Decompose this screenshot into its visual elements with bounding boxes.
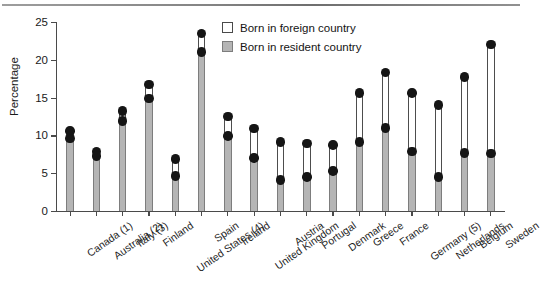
bar-foreign — [487, 45, 495, 154]
x-tick — [411, 211, 412, 216]
legend-item-foreign: Born in foreign country — [222, 19, 361, 36]
data-point-resident — [302, 172, 312, 182]
bar-resident — [93, 156, 101, 211]
bar-resident — [224, 136, 232, 211]
bar-resident — [172, 176, 180, 211]
y-tick — [51, 135, 57, 136]
data-point-resident — [407, 147, 417, 157]
y-tick-label: 0 — [42, 205, 48, 217]
y-tick-label: 5 — [42, 167, 48, 179]
x-tick — [280, 211, 281, 216]
legend-item-resident: Born in resident country — [222, 38, 361, 55]
bar-group — [198, 22, 206, 211]
bar-resident — [487, 154, 495, 211]
bar-resident — [198, 52, 206, 211]
data-point-foreign — [171, 154, 181, 164]
x-tick — [490, 211, 491, 216]
x-tick — [438, 211, 439, 216]
x-tick — [464, 211, 465, 216]
x-tick — [122, 211, 123, 216]
x-tick — [201, 211, 202, 216]
white-square-icon — [222, 22, 233, 33]
bar-resident — [145, 98, 153, 211]
bar-foreign — [461, 77, 469, 153]
bar-resident — [303, 177, 311, 211]
data-point-resident — [65, 134, 75, 144]
x-tick — [96, 211, 97, 216]
bar-resident — [250, 158, 258, 211]
data-point-foreign — [223, 112, 233, 122]
bar-resident — [66, 138, 74, 211]
data-point-foreign — [486, 40, 496, 50]
y-tick — [51, 22, 57, 23]
x-tick — [148, 211, 149, 216]
bar-group — [93, 22, 101, 211]
data-point-foreign — [434, 100, 444, 110]
data-point-foreign — [302, 139, 312, 149]
legend-label-foreign: Born in foreign country — [240, 22, 356, 34]
y-tick-label: 25 — [35, 16, 48, 28]
x-tick — [332, 211, 333, 216]
data-point-resident — [434, 172, 444, 182]
data-point-resident — [249, 153, 259, 163]
bar-group — [382, 22, 390, 211]
x-tick — [306, 211, 307, 216]
bar-foreign — [435, 105, 443, 177]
y-axis-line — [56, 22, 57, 212]
data-point-foreign — [355, 88, 365, 98]
data-point-resident — [276, 175, 286, 185]
y-tick-label: 20 — [35, 54, 48, 66]
bar-group — [172, 22, 180, 211]
data-point-resident — [486, 149, 496, 159]
x-tick — [227, 211, 228, 216]
x-tick — [175, 211, 176, 216]
bar-resident — [408, 151, 416, 211]
scan-artifact-line — [2, 4, 520, 6]
gray-square-icon — [222, 41, 233, 52]
y-tick — [51, 98, 57, 99]
bar-group — [487, 22, 495, 211]
data-point-resident — [381, 123, 391, 133]
data-point-resident — [92, 151, 102, 161]
bar-group — [119, 22, 127, 211]
bar-group — [461, 22, 469, 211]
bar-resident — [435, 177, 443, 211]
x-tick — [254, 211, 255, 216]
data-point-resident — [171, 171, 181, 181]
bar-foreign — [408, 93, 416, 151]
bar-foreign — [382, 73, 390, 128]
data-point-foreign — [276, 137, 286, 147]
data-point-resident — [223, 131, 233, 141]
data-point-foreign — [328, 140, 338, 150]
bar-resident — [461, 153, 469, 211]
y-tick — [51, 211, 57, 212]
y-tick — [51, 60, 57, 61]
bar-resident — [382, 128, 390, 211]
data-point-resident — [328, 166, 338, 176]
legend-label-resident: Born in resident country — [240, 41, 361, 53]
data-point-resident — [144, 94, 154, 104]
chart-legend: Born in foreign country Born in resident… — [222, 19, 361, 57]
bar-foreign — [356, 93, 364, 142]
y-tick — [51, 173, 57, 174]
data-point-resident — [355, 137, 365, 147]
x-tick — [359, 211, 360, 216]
y-tick-label: 15 — [35, 92, 48, 104]
bar-group — [145, 22, 153, 211]
bar-group — [66, 22, 74, 211]
bar-resident — [329, 171, 337, 211]
data-point-resident — [460, 148, 470, 158]
x-tick — [70, 211, 71, 216]
bar-group — [435, 22, 443, 211]
bar-resident — [356, 142, 364, 211]
caption-fragment — [8, 289, 218, 299]
bar-group — [408, 22, 416, 211]
x-tick — [385, 211, 386, 216]
bar-resident — [119, 121, 127, 211]
y-axis-title: Percentage — [8, 57, 20, 116]
y-tick-label: 10 — [35, 129, 48, 141]
data-point-foreign — [407, 88, 417, 98]
